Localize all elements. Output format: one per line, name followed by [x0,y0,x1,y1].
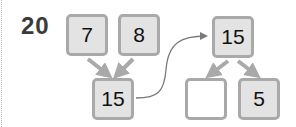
merge-arrow-from-7 [88,59,107,74]
sum-box-15: 15 [92,78,134,120]
merge-arrow-from-8 [118,59,133,74]
dotted-margin-line [1,0,2,127]
number-box-8: 8 [118,14,160,56]
split-arrow-to-empty [211,61,228,74]
whole-box-15: 15 [212,16,254,58]
split-arrow-to-5 [238,61,255,74]
problem-number: 20 [21,12,50,40]
answer-blank-box[interactable] [185,78,227,120]
part-box-5: 5 [238,78,280,120]
number-box-7: 7 [66,14,108,56]
